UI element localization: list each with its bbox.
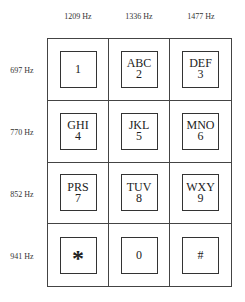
key-digit: 3 <box>198 69 204 80</box>
dtmf-keypad-grid: 1 ABC 2 DEF 3 GHI 4 JKL 5 MNO 6 PRS <box>47 38 232 287</box>
key-1[interactable]: 1 <box>60 51 97 88</box>
row-label-852: 852 Hz <box>0 190 44 199</box>
key-digit: 9 <box>198 193 204 204</box>
row-label-770: 770 Hz <box>0 128 44 137</box>
key-6[interactable]: MNO 6 <box>182 113 219 150</box>
cell-3: DEF 3 <box>170 39 231 101</box>
cell-8: TUV 8 <box>109 163 170 225</box>
cell-hash: # <box>170 224 231 286</box>
key-0[interactable]: 0 <box>121 237 158 274</box>
row-label-941: 941 Hz <box>0 252 44 261</box>
cell-4: GHI 4 <box>48 101 109 163</box>
key-digit: 2 <box>136 69 142 80</box>
key-digit: 4 <box>75 131 81 142</box>
hash-icon: # <box>198 250 204 261</box>
cell-1: 1 <box>48 39 109 101</box>
key-2[interactable]: ABC 2 <box>121 51 158 88</box>
cell-0: 0 <box>109 224 170 286</box>
key-4[interactable]: GHI 4 <box>60 113 97 150</box>
asterisk-icon: * <box>72 242 84 268</box>
key-5[interactable]: JKL 5 <box>121 113 158 150</box>
key-9[interactable]: WXY 9 <box>182 174 219 211</box>
cell-7: PRS 7 <box>48 163 109 225</box>
key-digit: 5 <box>136 131 142 142</box>
cell-5: JKL 5 <box>109 101 170 163</box>
key-3[interactable]: DEF 3 <box>182 51 219 88</box>
key-digit: 1 <box>75 64 81 75</box>
row-label-697: 697 Hz <box>0 66 44 75</box>
key-star[interactable]: * <box>60 237 97 274</box>
column-label-1209: 1209 Hz <box>47 12 109 21</box>
key-digit: 6 <box>198 131 204 142</box>
key-8[interactable]: TUV 8 <box>121 174 158 211</box>
key-digit: 8 <box>136 193 142 204</box>
key-hash[interactable]: # <box>182 237 219 274</box>
cell-2: ABC 2 <box>109 39 170 101</box>
key-digit: 7 <box>75 193 81 204</box>
cell-star: * <box>48 224 109 286</box>
cell-6: MNO 6 <box>170 101 231 163</box>
key-7[interactable]: PRS 7 <box>60 174 97 211</box>
key-digit: 0 <box>136 250 142 261</box>
column-label-1336: 1336 Hz <box>108 12 170 21</box>
cell-9: WXY 9 <box>170 163 231 225</box>
column-label-1477: 1477 Hz <box>170 12 232 21</box>
